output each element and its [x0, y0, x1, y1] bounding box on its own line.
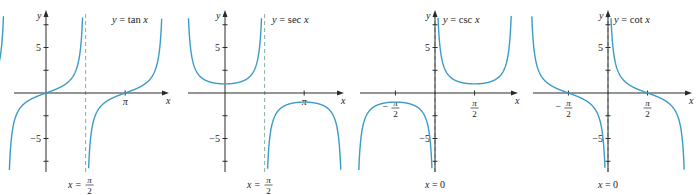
y-tick-label: −5: [30, 133, 41, 144]
y-axis-label: y: [36, 10, 42, 21]
x-axis-label: x: [514, 95, 520, 106]
panel-csc: xy5−5−π2π2y = csc xx = 0: [359, 10, 520, 190]
fraction-numerator: π: [472, 98, 477, 108]
y-axis-arrow-icon: [606, 10, 611, 17]
chart-title: y = tan x: [111, 14, 148, 25]
figure-canvas: xy5−5πy = tan xx =π2 xy5−5πy = sec xx =π…: [0, 0, 700, 195]
fraction-numerator: π: [266, 175, 271, 185]
trig-functions-figure: xy5−5πy = tan xx =π2 xy5−5πy = sec xx =π…: [0, 0, 700, 195]
asymptote-label-fraction: π2: [86, 175, 94, 195]
asymptote-label: x = 0: [597, 179, 618, 190]
chart-title: y = cot x: [613, 14, 650, 25]
y-axis-arrow-icon: [223, 10, 228, 17]
y-tick-label: −5: [419, 133, 430, 144]
x-axis-label: x: [688, 95, 694, 106]
fraction-numerator: π: [87, 175, 92, 185]
fraction-denominator: 2: [266, 186, 271, 195]
y-axis-arrow-icon: [44, 10, 49, 17]
asymptote-label: x =: [246, 179, 261, 190]
x-tick-label: π: [123, 96, 129, 107]
fraction-denominator: 2: [87, 186, 92, 195]
panel-sec: xy5−5πy = sec xx =π2: [188, 10, 346, 195]
x-axis-label: x: [165, 95, 171, 106]
y-tick-label: −5: [209, 133, 220, 144]
x-tick-label-fraction: −π2: [383, 98, 400, 119]
fraction-numerator: π: [645, 98, 650, 108]
fraction-numerator: π: [393, 98, 398, 108]
panel-cot: xy5−5−π2π2y = cot xx = 0: [532, 10, 694, 190]
y-tick-label: −5: [592, 133, 603, 144]
panel-tan: xy5−5πy = tan xx =π2: [0, 10, 171, 195]
fraction-denominator: 2: [645, 109, 650, 119]
asymptote-label-fraction: π2: [265, 175, 273, 195]
x-axis-label: x: [340, 95, 346, 106]
asymptote-label: x =: [67, 179, 82, 190]
y-axis-label: y: [598, 10, 604, 21]
fraction-denominator: 2: [472, 109, 477, 119]
y-tick-label: 5: [598, 42, 603, 53]
minus-sign: −: [556, 101, 562, 112]
fraction-denominator: 2: [393, 109, 398, 119]
x-tick-label-fraction: π2: [644, 98, 652, 119]
x-tick-label-fraction: −π2: [556, 98, 573, 119]
x-tick-label-fraction: π2: [471, 98, 479, 119]
chart-title: y = sec x: [271, 14, 309, 25]
y-axis-label: y: [425, 10, 431, 21]
fraction-numerator: π: [566, 98, 571, 108]
y-tick-label: 5: [36, 42, 41, 53]
y-axis-label: y: [215, 10, 221, 21]
y-tick-label: 5: [215, 42, 220, 53]
chart-title: y = csc x: [442, 14, 480, 25]
y-tick-label: 5: [425, 42, 430, 53]
fraction-denominator: 2: [566, 109, 571, 119]
y-axis-arrow-icon: [433, 10, 438, 17]
asymptote-label: x = 0: [424, 179, 445, 190]
